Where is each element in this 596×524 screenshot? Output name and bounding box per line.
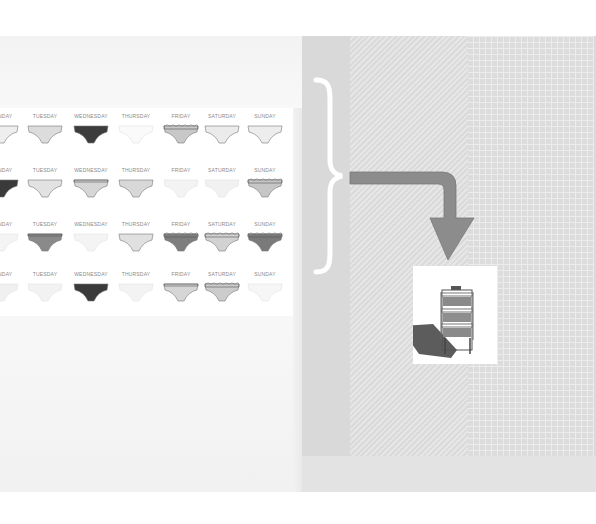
day-label: FRIDAY (158, 270, 204, 278)
day-cell-thursday: THURSDAY (113, 112, 159, 158)
underwear-icon (27, 282, 63, 302)
underwear-icon (163, 124, 199, 144)
underwear-icon (27, 124, 63, 144)
underwear-icon (0, 282, 19, 302)
day-label: MONDAY (0, 220, 24, 228)
underwear-icon (247, 232, 283, 252)
underwear-icon (118, 232, 154, 252)
day-cell-thursday: THURSDAY (113, 270, 159, 316)
day-label: MONDAY (0, 112, 24, 120)
day-label: THURSDAY (113, 270, 159, 278)
day-label: SATURDAY (199, 166, 245, 174)
underwear-icon (73, 124, 109, 144)
day-cell-wednesday: WEDNESDAY (68, 220, 114, 266)
underwear-icon (118, 282, 154, 302)
day-label: SATURDAY (199, 112, 245, 120)
day-label: WEDNESDAY (68, 112, 114, 120)
underwear-icon (0, 232, 19, 252)
day-cell-saturday: SATURDAY (199, 166, 245, 212)
day-cell-saturday: SATURDAY (199, 112, 245, 158)
underwear-icon (163, 282, 199, 302)
day-label: TUESDAY (22, 270, 68, 278)
underwear-icon (204, 232, 240, 252)
day-label: FRIDAY (158, 166, 204, 174)
bottom-strip (302, 456, 596, 492)
day-label: MONDAY (0, 270, 24, 278)
day-label: THURSDAY (113, 220, 159, 228)
day-cell-friday: FRIDAY (158, 270, 204, 316)
right-panel (302, 36, 596, 492)
week-row: MONDAYTUESDAYWEDNESDAYTHURSDAYFRIDAYSATU… (0, 112, 293, 160)
day-cell-wednesday: WEDNESDAY (68, 270, 114, 316)
day-label: THURSDAY (113, 112, 159, 120)
day-cell-thursday: THURSDAY (113, 166, 159, 212)
day-cell-wednesday: WEDNESDAY (68, 166, 114, 212)
day-cell-sunday: SUNDAY (242, 270, 288, 316)
underwear-icon (27, 178, 63, 198)
underwear-icon (163, 178, 199, 198)
day-cell-saturday: SATURDAY (199, 270, 245, 316)
day-label: TUESDAY (22, 166, 68, 174)
day-cell-sunday: SUNDAY (242, 112, 288, 158)
curly-brace-icon (312, 76, 346, 276)
day-cell-friday: FRIDAY (158, 220, 204, 266)
underwear-icon (73, 282, 109, 302)
day-cell-tuesday: TUESDAY (22, 166, 68, 212)
underwear-icon (204, 178, 240, 198)
underwear-icon (0, 124, 19, 144)
day-cell-thursday: THURSDAY (113, 220, 159, 266)
week-row: MONDAYTUESDAYWEDNESDAYTHURSDAYFRIDAYSATU… (0, 166, 293, 214)
day-label: SUNDAY (242, 270, 288, 278)
underwear-icon (204, 282, 240, 302)
left-panel: MONDAYTUESDAYWEDNESDAYTHURSDAYFRIDAYSATU… (0, 36, 302, 492)
day-cell-tuesday: TUESDAY (22, 112, 68, 158)
day-cell-friday: FRIDAY (158, 166, 204, 212)
panel-divider (293, 108, 302, 492)
day-label: SUNDAY (242, 220, 288, 228)
day-label: FRIDAY (158, 220, 204, 228)
day-label: SATURDAY (199, 220, 245, 228)
underwear-icon (247, 124, 283, 144)
day-label: WEDNESDAY (68, 220, 114, 228)
week-row: MONDAYTUESDAYWEDNESDAYTHURSDAYFRIDAYSATU… (0, 270, 293, 318)
day-label: TUESDAY (22, 220, 68, 228)
underwear-icon (0, 178, 19, 198)
underwear-icon (204, 124, 240, 144)
underwear-icon (247, 282, 283, 302)
day-cell-sunday: SUNDAY (242, 166, 288, 212)
day-label: WEDNESDAY (68, 166, 114, 174)
day-label: SUNDAY (242, 112, 288, 120)
day-label: THURSDAY (113, 166, 159, 174)
day-cell-wednesday: WEDNESDAY (68, 112, 114, 158)
curved-arrow-icon (346, 160, 476, 264)
drying-rack-icon (413, 266, 497, 364)
underwear-icon (118, 178, 154, 198)
underwear-icon (247, 178, 283, 198)
day-cell-tuesday: TUESDAY (22, 220, 68, 266)
day-cell-monday: MONDAY (0, 166, 24, 212)
day-cell-monday: MONDAY (0, 270, 24, 316)
day-cell-tuesday: TUESDAY (22, 270, 68, 316)
day-cell-monday: MONDAY (0, 112, 24, 158)
underwear-icon (163, 232, 199, 252)
day-cell-saturday: SATURDAY (199, 220, 245, 266)
weekly-underwear-grid: MONDAYTUESDAYWEDNESDAYTHURSDAYFRIDAYSATU… (0, 108, 293, 316)
day-label: SUNDAY (242, 166, 288, 174)
day-label: SATURDAY (199, 270, 245, 278)
day-label: FRIDAY (158, 112, 204, 120)
underwear-icon (73, 232, 109, 252)
day-label: WEDNESDAY (68, 270, 114, 278)
day-cell-friday: FRIDAY (158, 112, 204, 158)
drying-rack-card (413, 266, 497, 364)
day-cell-sunday: SUNDAY (242, 220, 288, 266)
week-row: MONDAYTUESDAYWEDNESDAYTHURSDAYFRIDAYSATU… (0, 220, 293, 268)
day-cell-monday: MONDAY (0, 220, 24, 266)
day-label: MONDAY (0, 166, 24, 174)
mesh-texture-zone (468, 36, 594, 456)
day-label: TUESDAY (22, 112, 68, 120)
underwear-icon (118, 124, 154, 144)
underwear-icon (73, 178, 109, 198)
underwear-icon (27, 232, 63, 252)
